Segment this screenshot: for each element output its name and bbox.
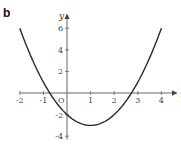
- y-tick-label: 2: [58, 67, 63, 76]
- x-tick-label: -1: [40, 96, 48, 105]
- x-axis-label: x: [180, 89, 181, 99]
- axes: [20, 15, 177, 140]
- parabola-curve: [20, 28, 162, 125]
- origin-label: O: [58, 96, 65, 105]
- y-tick-label: -2: [55, 111, 63, 120]
- y-tick-label: 4: [58, 46, 63, 55]
- x-tick-label: 3: [135, 96, 140, 105]
- ticks: -2-11234-4-2246: [16, 24, 164, 141]
- x-tick-label: 4: [159, 96, 164, 105]
- x-tick-label: 2: [112, 96, 117, 105]
- x-tick-label: -2: [16, 96, 24, 105]
- x-tick-label: 1: [88, 96, 93, 105]
- axis-labels: xyO: [58, 11, 181, 105]
- y-axis-label: y: [58, 11, 65, 21]
- y-tick-label: -4: [55, 132, 63, 141]
- curve: [20, 28, 162, 125]
- parabola-chart: -2-11234-4-2246 xyO: [0, 0, 181, 150]
- y-tick-label: 6: [58, 24, 63, 33]
